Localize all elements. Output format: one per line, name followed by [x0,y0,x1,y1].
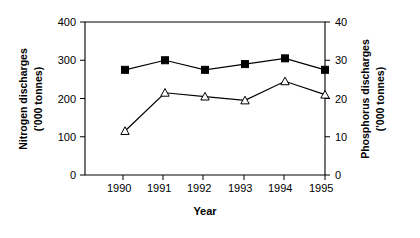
right-tick-label-10: 10 [335,131,347,143]
left-axis-title-line1: Nitrogen discharges [17,48,29,150]
x-tick-label-1994: 1994 [268,182,292,194]
left-tick-label-100: 100 [58,131,76,143]
data-point-square [282,55,289,62]
right-axis-title-line2: ('000 tonnes) [374,67,386,131]
data-point-square [202,66,209,73]
x-tick-label-1991: 1991 [147,182,171,194]
left-tick-label-200: 200 [58,93,76,105]
x-axis-title: Year [193,205,217,217]
left-axis-title-line2: ('000 tonnes) [32,67,44,131]
right-axis-title-line1: Phosphorus discharges [359,39,371,159]
right-tick-label-0: 0 [335,169,341,181]
left-tick-label-300: 300 [58,54,76,66]
right-tick-label-40: 40 [335,16,347,28]
chart-background [0,0,420,238]
x-tick-label-1993: 1993 [228,182,252,194]
right-tick-label-20: 20 [335,93,347,105]
x-tick-label-1992: 1992 [187,182,211,194]
data-point-square [122,66,129,73]
x-tick-label-1995: 1995 [309,182,333,194]
x-tick-label-1990: 1990 [107,182,131,194]
data-point-square [322,66,329,73]
left-tick-label-0: 0 [70,169,76,181]
left-tick-label-400: 400 [58,16,76,28]
chart-svg: 400 300 200 100 0 40 30 20 10 0 [0,0,420,238]
data-point-square [162,57,169,64]
right-tick-label-30: 30 [335,54,347,66]
chart-figure: 400 300 200 100 0 40 30 20 10 0 [0,0,420,238]
data-point-square [242,61,249,68]
